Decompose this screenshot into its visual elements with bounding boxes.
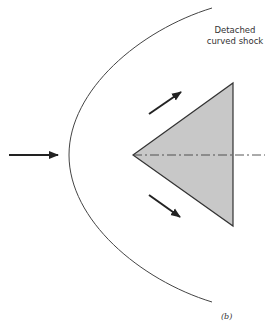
diagram-svg — [0, 0, 274, 328]
lower-flow-arrow — [149, 195, 180, 217]
wedge-body — [133, 83, 233, 226]
shock-label-line2: curved shock — [196, 36, 274, 47]
upper-flow-arrow — [149, 92, 181, 114]
shock-label: Detached curved shock — [196, 25, 274, 47]
shock-label-line1: Detached — [196, 25, 274, 36]
figure-label: (b) — [221, 312, 232, 321]
diagram-canvas: Detached curved shock (b) — [0, 0, 274, 328]
